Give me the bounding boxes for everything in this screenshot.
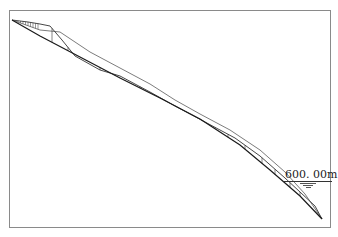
water-level-label: 600. 00m (285, 168, 337, 181)
water-level-triangle-icon (296, 183, 320, 191)
profile-diagram (0, 0, 338, 237)
middle-profile-line (12, 20, 322, 219)
label-underline (284, 181, 332, 182)
bottom-profile-line (12, 20, 322, 219)
drawing-frame (10, 11, 331, 228)
cross-section-lines (52, 28, 300, 196)
top-profile-line (12, 20, 322, 219)
